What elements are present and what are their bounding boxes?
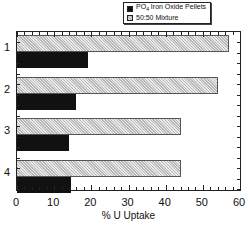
legend-swatch-black [127, 6, 133, 12]
bar-pellets-1 [17, 52, 88, 68]
x-tick [129, 185, 130, 190]
x-tick [76, 187, 77, 190]
x-tick [136, 32, 137, 35]
x-tick [195, 187, 196, 190]
x-tick-label: 0 [13, 196, 19, 208]
y-tick [237, 84, 240, 85]
x-tick [173, 187, 174, 190]
x-tick [143, 32, 144, 35]
x-tick [240, 185, 241, 190]
x-tick [143, 187, 144, 190]
bar-mixture-3 [17, 118, 181, 135]
x-tick [99, 187, 100, 190]
x-tick [188, 32, 189, 35]
y-tick [17, 168, 20, 169]
legend-item-mixture: 50:50 Mixture [127, 13, 178, 22]
bar-pellets-3 [17, 135, 69, 151]
x-tick [181, 32, 182, 35]
x-tick [218, 187, 219, 190]
x-axis-title: % U Uptake [0, 210, 247, 221]
x-tick [151, 187, 152, 190]
y-tick [17, 105, 20, 106]
x-tick [114, 187, 115, 190]
bar-pellets-4 [17, 177, 71, 193]
y-tick [17, 158, 20, 159]
x-tick [121, 187, 122, 190]
y-tick [237, 53, 240, 54]
y-tick-label: 3 [4, 124, 10, 136]
y-tick [17, 137, 20, 138]
x-tick [136, 187, 137, 190]
y-tick [17, 95, 20, 96]
x-tick [158, 187, 159, 190]
x-tick [84, 32, 85, 35]
x-tick-label: 20 [84, 196, 96, 208]
x-tick [84, 187, 85, 190]
x-tick [106, 187, 107, 190]
bar-mixture-4 [17, 160, 181, 177]
x-tick-label: 60 [233, 196, 245, 208]
x-tick [203, 32, 204, 37]
y-tick [17, 53, 20, 54]
x-tick [240, 32, 241, 37]
y-tick [17, 126, 20, 127]
x-tick [225, 187, 226, 190]
y-tick [237, 147, 240, 148]
x-tick [24, 187, 25, 190]
x-tick [195, 32, 196, 35]
x-tick [99, 32, 100, 35]
x-tick [218, 32, 219, 35]
x-tick [121, 32, 122, 35]
y-tick [17, 116, 20, 117]
x-tick [114, 32, 115, 35]
x-tick [173, 32, 174, 35]
x-tick-label: 10 [47, 196, 59, 208]
legend-label-mixture: 50:50 Mixture [136, 13, 178, 22]
y-tick [237, 74, 240, 75]
x-tick [32, 187, 33, 190]
bar-pellets-2 [17, 94, 76, 110]
x-tick [210, 187, 211, 190]
y-tick [17, 74, 20, 75]
x-tick [233, 32, 234, 35]
y-tick-label: 4 [4, 166, 10, 178]
legend-item-pellets: PO4 Iron Oxide Pellets [127, 4, 206, 13]
y-tick [237, 158, 240, 159]
x-tick [166, 185, 167, 190]
y-tick [237, 105, 240, 106]
x-tick [47, 187, 48, 190]
x-tick [151, 32, 152, 35]
x-tick [166, 32, 167, 37]
bar-mixture-1 [17, 35, 229, 52]
y-tick [237, 95, 240, 96]
x-tick [24, 32, 25, 35]
x-tick [158, 32, 159, 35]
x-tick [106, 32, 107, 35]
y-tick [237, 168, 240, 169]
x-tick [39, 187, 40, 190]
y-tick [17, 84, 20, 85]
x-tick [210, 32, 211, 35]
y-tick [17, 189, 20, 190]
x-tick [32, 32, 33, 35]
bar-mixture-2 [17, 77, 218, 94]
x-tick [76, 32, 77, 35]
legend-swatch-hatched [127, 15, 133, 21]
x-tick [54, 32, 55, 37]
legend: PO4 Iron Oxide Pellets 50:50 Mixture [123, 2, 211, 24]
x-tick [69, 187, 70, 190]
x-tick [225, 32, 226, 35]
y-tick [237, 137, 240, 138]
x-tick [233, 187, 234, 190]
x-tick [91, 32, 92, 37]
x-tick [62, 32, 63, 35]
x-tick [54, 185, 55, 190]
x-tick [69, 32, 70, 35]
y-tick-label: 1 [4, 41, 10, 53]
x-tick [47, 32, 48, 35]
x-tick [129, 32, 130, 37]
x-tick [188, 187, 189, 190]
x-tick [91, 185, 92, 190]
y-tick [17, 147, 20, 148]
plot-area [16, 31, 241, 191]
